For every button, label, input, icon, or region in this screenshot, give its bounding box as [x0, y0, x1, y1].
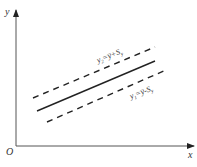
origin-label: O: [6, 146, 13, 157]
control-band-diagram: y x O y2=y̅+Sy y1=y̅-Sy: [0, 0, 197, 167]
lower-limit-line: [47, 70, 166, 122]
upper-line-label: y2=y̅+Sy: [94, 46, 124, 66]
center-line: [37, 61, 155, 111]
lower-line-label: y1=y̅-Sy: [127, 83, 155, 102]
svg-text:y1=y̅-Sy: y1=y̅-Sy: [127, 83, 155, 102]
svg-text:y2=y̅+Sy: y2=y̅+Sy: [94, 46, 124, 66]
x-axis-label: x: [187, 149, 193, 160]
y-axis-label: y: [4, 6, 10, 17]
